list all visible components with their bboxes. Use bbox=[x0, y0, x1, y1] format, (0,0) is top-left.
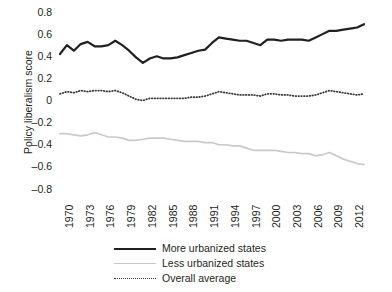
legend-item-less-urbanized: Less urbanized states bbox=[112, 255, 342, 270]
series-line-overall-average bbox=[60, 91, 364, 101]
series-line-less-urbanized-states bbox=[60, 133, 364, 165]
series-line-more-urbanized-states bbox=[60, 24, 364, 63]
chart-figure: Policy liberalism score 0.80.60.40.20–0.… bbox=[0, 0, 392, 292]
legend-label-less-urbanized: Less urbanized states bbox=[158, 257, 264, 269]
legend-label-overall-average: Overall average bbox=[158, 272, 236, 284]
legend-label-more-urbanized: More urbanized states bbox=[158, 242, 266, 254]
legend-line-swatch-dotted bbox=[112, 272, 158, 284]
legend-item-more-urbanized: More urbanized states bbox=[112, 240, 342, 255]
legend-item-overall-average: Overall average bbox=[112, 270, 342, 285]
chart-legend: More urbanized states Less urbanized sta… bbox=[112, 240, 342, 285]
legend-line-swatch-solid-gray bbox=[112, 257, 158, 269]
legend-line-swatch-solid-black bbox=[112, 242, 158, 254]
